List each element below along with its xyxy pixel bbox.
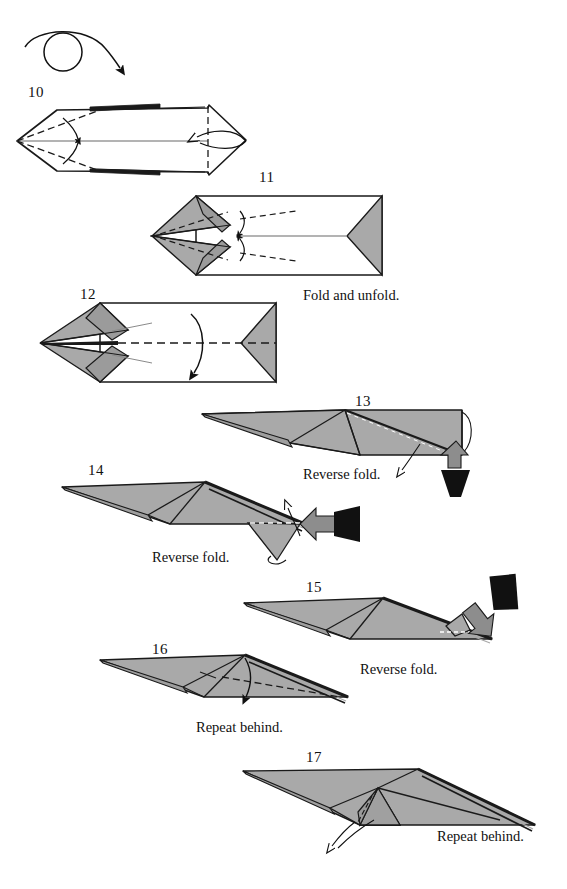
step-number-17: 17 xyxy=(306,749,322,766)
figure-step-17 xyxy=(0,0,567,889)
caption-step-17: Repeat behind. xyxy=(437,828,524,845)
origami-diagram-page: 10 xyxy=(0,0,567,889)
